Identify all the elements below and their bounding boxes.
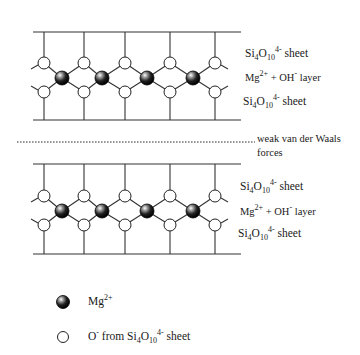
oxygen-ion-icon	[164, 190, 176, 202]
bond-line	[221, 219, 228, 223]
oxygen-ion-icon	[119, 86, 131, 98]
mg-ion-icon	[95, 71, 109, 85]
oxygen-ion-icon	[78, 86, 90, 98]
oxygen-ion-icon	[209, 190, 221, 202]
oxygen-ion-icon	[209, 219, 221, 231]
mg-ion-legend-icon	[57, 296, 70, 309]
bottom-lower-sheet-label: Si4O104- sheet	[238, 228, 301, 240]
van-der-waals-label: weak van der Waals forces	[257, 134, 341, 158]
mg-ion-icon	[186, 204, 200, 218]
bond-line	[31, 198, 38, 202]
legend-mg-label: Mg2+	[88, 296, 113, 308]
bond-line	[221, 198, 228, 202]
oxygen-ion-icon	[209, 86, 221, 98]
top-lower-sheet-label: Si4O104- sheet	[243, 96, 306, 108]
oxygen-ion-icon	[38, 86, 50, 98]
oxygen-ion-icon	[38, 219, 50, 231]
bottom-silicate-layer	[31, 164, 241, 254]
oxygen-ion-icon	[119, 57, 131, 69]
top-silicate-layer	[31, 32, 241, 120]
oxygen-ion-legend-icon	[58, 332, 69, 343]
oxygen-ion-icon	[164, 219, 176, 231]
bottom-upper-sheet-label: Si4O104- sheet	[240, 181, 303, 193]
oxygen-ion-icon	[119, 190, 131, 202]
mg-ion-icon	[95, 204, 109, 218]
mg-ion-icon	[186, 71, 200, 85]
oxygen-ion-icon	[164, 57, 176, 69]
bond-line	[31, 86, 38, 90]
bond-line	[221, 65, 228, 69]
oxygen-ion-icon	[164, 86, 176, 98]
mg-ion-icon	[140, 71, 154, 85]
bond-line	[31, 219, 38, 223]
top-middle-layer-label: Mg2+ + OH- layer	[245, 73, 321, 84]
oxygen-ion-icon	[38, 57, 50, 69]
oxygen-ion-icon	[119, 219, 131, 231]
bond-line	[221, 86, 228, 90]
oxygen-ion-icon	[78, 219, 90, 231]
bottom-middle-layer-label: Mg2+ + OH- layer	[240, 207, 316, 218]
oxygen-ion-icon	[38, 190, 50, 202]
oxygen-ion-icon	[78, 190, 90, 202]
oxygen-ion-icon	[78, 57, 90, 69]
mg-ion-icon	[55, 71, 69, 85]
top-upper-sheet-label: Si4O104- sheet	[245, 48, 308, 60]
bond-line	[31, 65, 38, 69]
oxygen-ion-icon	[209, 57, 221, 69]
mg-ion-icon	[55, 204, 69, 218]
legend-oxygen-label: O- from Si4O104- sheet	[88, 331, 190, 343]
mg-ion-icon	[140, 204, 154, 218]
